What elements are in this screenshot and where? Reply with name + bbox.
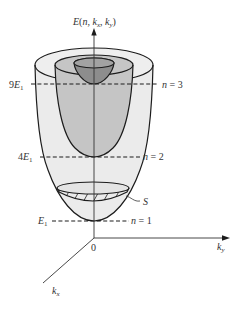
kx-axis-label: kx (52, 285, 60, 298)
energy-paraboloid-diagram: S E(n, kx, ky) 0 ky kx 9E1 4E1 E1 n = 3 … (0, 0, 240, 312)
n1-label: n = 1 (131, 215, 152, 226)
level-9e1-label: 9E1 (9, 79, 24, 92)
origin-label: 0 (91, 242, 96, 253)
ky-axis-label: ky (217, 241, 225, 254)
ky-axis-arrow-icon (222, 235, 230, 240)
s-leader-line (126, 196, 140, 201)
n3-label: n = 3 (162, 79, 183, 90)
surface-s-label: S (143, 196, 148, 207)
disc-top (57, 182, 129, 194)
level-e1-label: E1 (37, 215, 48, 228)
energy-axis-label: E(n, kx, ky) (72, 16, 116, 29)
kx-axis (43, 238, 94, 283)
n2-label: n = 2 (143, 151, 164, 162)
energy-axis-arrow-icon (91, 28, 96, 36)
diagram-svg: S E(n, kx, ky) 0 ky kx 9E1 4E1 E1 n = 3 … (0, 0, 240, 312)
level-4e1-label: 4E1 (18, 151, 33, 164)
